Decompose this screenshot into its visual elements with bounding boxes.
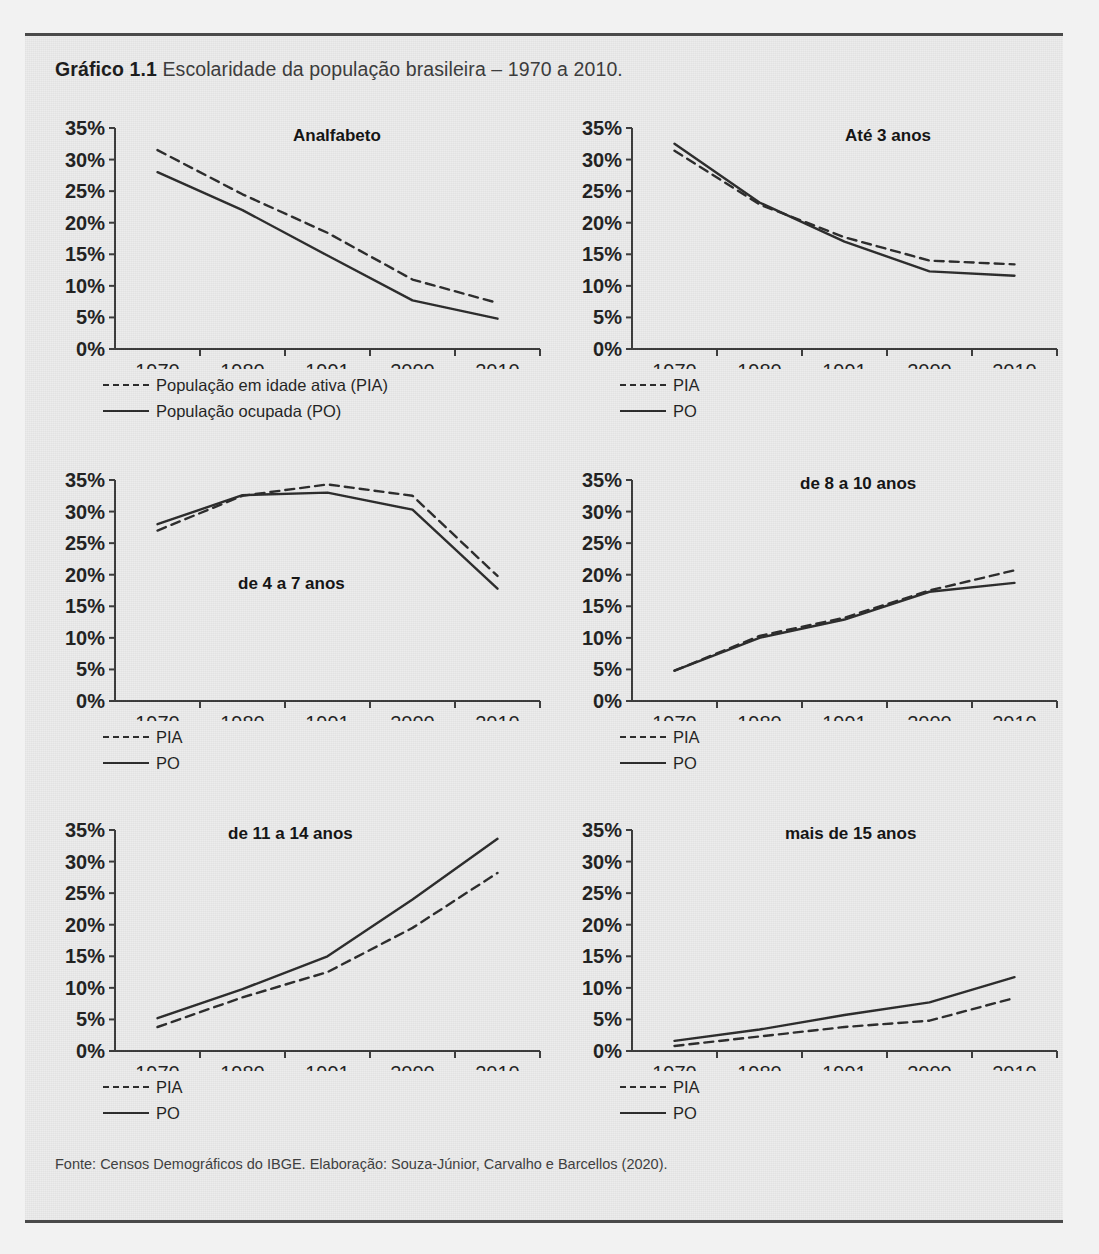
y-tick-label: 20% bbox=[582, 914, 622, 936]
x-tick-label: 1970 bbox=[652, 712, 697, 721]
y-tick-label: 0% bbox=[76, 338, 105, 360]
y-tick-label: 35% bbox=[65, 819, 105, 841]
y-tick-label: 0% bbox=[593, 338, 622, 360]
x-tick-label: 1991 bbox=[305, 712, 350, 721]
legend-key-dashed-icon bbox=[620, 736, 666, 738]
chart-legend-5: PIA PO bbox=[620, 1074, 700, 1126]
y-tick-label: 20% bbox=[582, 564, 622, 586]
series-line-po bbox=[675, 977, 1015, 1041]
y-tick-label: 5% bbox=[593, 1008, 622, 1030]
legend-label-pia: PIA bbox=[156, 729, 183, 746]
x-tick-label: 2010 bbox=[475, 712, 520, 721]
chart-panel-ate-3-anos: 0%5%10%15%20%25%30%35%197019801991200020… bbox=[560, 114, 1060, 369]
x-tick-label: 1991 bbox=[822, 712, 867, 721]
x-tick-label: 1970 bbox=[135, 360, 180, 369]
x-tick-label: 1970 bbox=[135, 712, 180, 721]
x-tick-label: 2000 bbox=[390, 1062, 435, 1071]
x-tick-label: 1970 bbox=[135, 1062, 180, 1071]
chart-svg-4: 0%5%10%15%20%25%30%35%197019801991200020… bbox=[43, 816, 548, 1071]
legend-key-dashed-icon bbox=[103, 1086, 149, 1088]
y-tick-label: 5% bbox=[593, 658, 622, 680]
x-tick-label: 1980 bbox=[220, 1062, 265, 1071]
y-tick-label: 20% bbox=[65, 914, 105, 936]
chart-title: Analfabeto bbox=[293, 126, 381, 146]
plot-area-1: 0%5%10%15%20%25%30%35%197019801991200020… bbox=[560, 114, 1060, 369]
chart-panel-de-11-a-14-anos: 0%5%10%15%20%25%30%35%197019801991200020… bbox=[43, 816, 553, 1071]
y-tick-label: 30% bbox=[582, 501, 622, 523]
chart-legend-4: PIA PO bbox=[103, 1074, 183, 1126]
series-line-pia bbox=[675, 998, 1015, 1046]
y-tick-label: 10% bbox=[582, 275, 622, 297]
series-line-po bbox=[158, 839, 498, 1018]
chart-legend-0: População em idade ativa (PIA) População… bbox=[103, 372, 388, 424]
legend-label-pia: PIA bbox=[156, 1079, 183, 1096]
series-line-po bbox=[158, 172, 498, 318]
legend-key-dashed-icon bbox=[103, 736, 149, 738]
x-tick-label: 1980 bbox=[737, 1062, 782, 1071]
legend-label-po: População ocupada (PO) bbox=[156, 403, 341, 420]
y-tick-label: 5% bbox=[593, 306, 622, 328]
x-tick-label: 2010 bbox=[992, 360, 1037, 369]
y-tick-label: 25% bbox=[582, 882, 622, 904]
y-tick-label: 10% bbox=[65, 977, 105, 999]
y-tick-label: 35% bbox=[582, 117, 622, 139]
x-tick-label: 2010 bbox=[475, 360, 520, 369]
x-tick-label: 1980 bbox=[737, 360, 782, 369]
legend-item-pia: PIA bbox=[103, 1074, 183, 1100]
x-tick-label: 1991 bbox=[822, 1062, 867, 1071]
x-tick-label: 2000 bbox=[907, 1062, 952, 1071]
series-line-pia bbox=[675, 151, 1015, 265]
series-line-pia bbox=[158, 873, 498, 1027]
y-tick-label: 20% bbox=[65, 564, 105, 586]
y-tick-label: 10% bbox=[582, 977, 622, 999]
x-tick-label: 2000 bbox=[907, 360, 952, 369]
y-tick-label: 10% bbox=[65, 275, 105, 297]
caption-number: Gráfico 1.1 bbox=[55, 58, 157, 80]
legend-label-pia: PIA bbox=[673, 1079, 700, 1096]
x-tick-label: 1991 bbox=[305, 1062, 350, 1071]
y-tick-label: 30% bbox=[65, 501, 105, 523]
chart-title: de 4 a 7 anos bbox=[238, 574, 345, 594]
x-tick-label: 1980 bbox=[220, 360, 265, 369]
legend-key-solid-icon bbox=[103, 410, 149, 412]
x-tick-label: 2010 bbox=[992, 1062, 1037, 1071]
source-note: Fonte: Censos Demográficos do IBGE. Elab… bbox=[55, 1156, 668, 1172]
chart-panel-analfabeto: 0%5%10%15%20%25%30%35%197019801991200020… bbox=[43, 114, 553, 369]
chart-title: de 11 a 14 anos bbox=[228, 824, 353, 844]
legend-key-solid-icon bbox=[103, 762, 149, 764]
legend-label-po: PO bbox=[156, 1105, 180, 1122]
x-tick-label: 2000 bbox=[390, 360, 435, 369]
figure-frame: Gráfico 1.1 Escolaridade da população br… bbox=[25, 33, 1063, 1223]
figure-caption: Gráfico 1.1 Escolaridade da população br… bbox=[55, 58, 623, 81]
chart-panel-de-8-a-10-anos: 0%5%10%15%20%25%30%35%197019801991200020… bbox=[560, 466, 1060, 721]
legend-item-po: PO bbox=[103, 750, 183, 776]
chart-panel-mais-de-15-anos: 0%5%10%15%20%25%30%35%197019801991200020… bbox=[560, 816, 1060, 1071]
series-line-po bbox=[675, 144, 1015, 276]
legend-item-pia: População em idade ativa (PIA) bbox=[103, 372, 388, 398]
legend-label-pia: PIA bbox=[673, 377, 700, 394]
x-tick-label: 2010 bbox=[992, 712, 1037, 721]
y-tick-label: 15% bbox=[582, 243, 622, 265]
legend-item-po: PO bbox=[620, 1100, 700, 1126]
y-tick-label: 35% bbox=[65, 117, 105, 139]
legend-item-pia: PIA bbox=[103, 724, 183, 750]
legend-key-solid-icon bbox=[620, 762, 666, 764]
chart-svg-0: 0%5%10%15%20%25%30%35%197019801991200020… bbox=[43, 114, 548, 369]
legend-key-dashed-icon bbox=[620, 1086, 666, 1088]
y-tick-label: 25% bbox=[582, 532, 622, 554]
y-tick-label: 25% bbox=[65, 882, 105, 904]
legend-key-dashed-icon bbox=[620, 384, 666, 386]
legend-key-dashed-icon bbox=[103, 384, 149, 386]
y-tick-label: 0% bbox=[76, 690, 105, 712]
chart-title: mais de 15 anos bbox=[785, 824, 916, 844]
legend-key-solid-icon bbox=[620, 410, 666, 412]
series-line-pia bbox=[158, 484, 498, 576]
legend-label-pia: PIA bbox=[673, 729, 700, 746]
chart-legend-2: PIA PO bbox=[103, 724, 183, 776]
y-tick-label: 35% bbox=[65, 469, 105, 491]
x-tick-label: 1980 bbox=[737, 712, 782, 721]
x-tick-label: 1970 bbox=[652, 360, 697, 369]
y-tick-label: 15% bbox=[582, 945, 622, 967]
plot-area-3: 0%5%10%15%20%25%30%35%197019801991200020… bbox=[560, 466, 1060, 721]
y-tick-label: 5% bbox=[76, 1008, 105, 1030]
